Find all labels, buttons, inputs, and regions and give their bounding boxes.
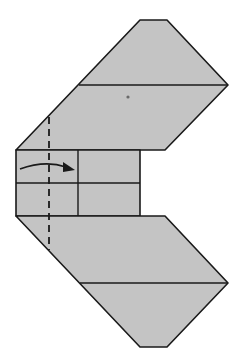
lower-flap xyxy=(16,216,228,347)
reference-dot xyxy=(126,95,129,98)
diagram-canvas xyxy=(0,0,243,359)
origami-diagram xyxy=(0,0,243,359)
